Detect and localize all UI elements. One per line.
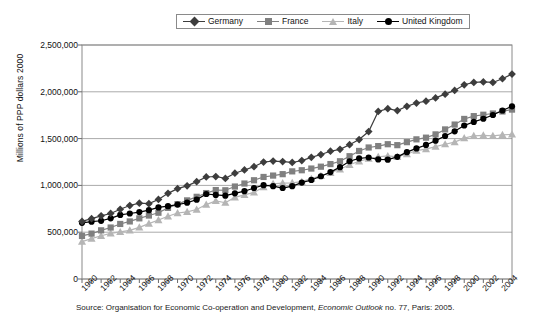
data-marker [222, 187, 228, 193]
data-marker [213, 192, 219, 198]
series-germany [78, 70, 516, 225]
data-marker [499, 75, 507, 83]
data-marker [155, 210, 161, 216]
data-marker [356, 155, 362, 161]
data-marker [366, 154, 372, 160]
data-marker [432, 94, 440, 102]
data-marker [194, 197, 200, 203]
data-marker [471, 113, 477, 119]
data-marker [452, 121, 458, 127]
data-marker [490, 112, 496, 118]
data-marker [135, 223, 143, 230]
data-marker [318, 173, 324, 179]
data-marker [404, 149, 410, 155]
data-marker [394, 154, 400, 160]
data-marker [126, 202, 134, 210]
data-marker [183, 182, 191, 190]
data-marker [299, 179, 305, 185]
data-marker [241, 188, 247, 194]
data-marker [346, 158, 352, 164]
data-marker [307, 153, 315, 161]
data-marker [479, 78, 487, 86]
data-marker [336, 145, 344, 153]
data-marker [279, 158, 287, 166]
data-marker [260, 182, 266, 188]
data-marker [393, 107, 401, 115]
chart-figure: GermanyFranceItalyUnited Kingdom Million… [0, 0, 547, 324]
data-marker [375, 143, 381, 149]
data-marker [260, 158, 268, 166]
source-suffix: no. 77, Paris: 2005. [383, 303, 455, 312]
data-marker [327, 169, 333, 175]
data-marker [346, 141, 354, 149]
data-marker [451, 87, 459, 95]
data-marker [508, 70, 516, 78]
data-marker [241, 166, 249, 174]
data-marker [317, 151, 325, 159]
data-marker [422, 97, 430, 105]
data-marker [452, 128, 458, 134]
data-marker [174, 201, 180, 207]
data-marker [413, 99, 421, 107]
data-marker [374, 108, 382, 116]
data-marker [480, 116, 486, 122]
data-marker [193, 178, 201, 186]
data-marker [232, 183, 238, 189]
data-marker [327, 161, 333, 167]
data-marker [337, 158, 343, 164]
data-marker [146, 207, 152, 213]
data-marker [136, 209, 142, 215]
data-marker [288, 159, 296, 167]
data-marker [413, 136, 419, 142]
data-marker [432, 131, 438, 137]
data-marker [232, 190, 238, 196]
data-marker [403, 102, 411, 110]
data-marker [193, 206, 201, 213]
data-marker [107, 210, 115, 218]
series-line [82, 74, 512, 221]
data-marker [108, 224, 114, 230]
data-marker [289, 168, 295, 174]
data-marker [413, 145, 419, 151]
data-marker [432, 138, 438, 144]
data-marker [318, 164, 324, 170]
plot-canvas [0, 0, 547, 324]
data-marker [423, 135, 429, 141]
data-marker [461, 116, 467, 122]
data-marker [155, 204, 161, 210]
data-marker [202, 201, 210, 208]
data-marker [460, 81, 468, 89]
data-marker [241, 180, 247, 186]
data-marker [117, 221, 123, 227]
data-marker [423, 142, 429, 148]
data-marker [289, 183, 295, 189]
source-prefix: Source: Organisation for Economic Co-ope… [76, 303, 318, 312]
data-marker [251, 185, 257, 191]
data-marker [394, 142, 400, 148]
data-marker [384, 105, 392, 113]
data-marker [135, 199, 143, 207]
data-marker [385, 157, 391, 163]
series-line [82, 106, 512, 223]
data-marker [308, 177, 314, 183]
data-marker [499, 107, 505, 113]
data-marker [260, 174, 266, 180]
data-marker [202, 173, 210, 181]
data-marker [327, 147, 335, 155]
data-marker [270, 183, 276, 189]
data-marker [250, 163, 258, 171]
data-marker [136, 215, 142, 221]
data-marker [270, 172, 276, 178]
plot-area-wrapper: Millions of PPP dollars 2000 2,500,0002,… [0, 0, 547, 324]
data-marker [184, 200, 190, 206]
data-marker [203, 191, 209, 197]
data-marker [155, 196, 163, 204]
data-marker [231, 169, 239, 177]
data-marker [375, 156, 381, 162]
data-marker [221, 175, 229, 183]
data-marker [146, 212, 152, 218]
data-marker [79, 233, 85, 239]
data-marker [98, 227, 104, 233]
series-france [79, 106, 515, 239]
data-marker [165, 203, 171, 209]
